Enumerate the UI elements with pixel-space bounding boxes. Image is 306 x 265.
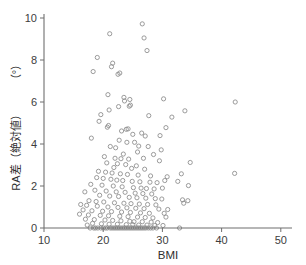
data-point (151, 216, 155, 220)
data-point (152, 187, 156, 191)
data-point (115, 178, 119, 182)
data-point (141, 156, 145, 160)
data-point (81, 208, 85, 212)
x-tick-label: 20 (97, 234, 109, 246)
data-point (101, 209, 105, 213)
data-point (137, 202, 141, 206)
data-point (127, 104, 131, 108)
data-point (143, 167, 147, 171)
data-point (140, 131, 144, 135)
data-point (176, 179, 180, 183)
data-point (135, 215, 139, 219)
data-point (131, 186, 135, 190)
data-point (118, 214, 122, 218)
data-point (143, 134, 147, 138)
data-point (143, 215, 147, 219)
data-point (85, 203, 89, 207)
data-point (114, 146, 118, 150)
data-point (109, 177, 113, 181)
data-point (104, 189, 108, 193)
data-point (98, 193, 102, 197)
data-point (109, 210, 113, 214)
data-point (96, 169, 100, 173)
data-point (170, 115, 174, 119)
data-point (137, 144, 141, 148)
y-axis-unit-label: （°） (10, 59, 22, 85)
data-point (158, 134, 162, 138)
data-point (106, 205, 110, 209)
data-point (149, 220, 153, 224)
y-tick-label: 0 (31, 222, 37, 234)
data-point (163, 178, 167, 182)
data-point (154, 203, 158, 207)
data-point (99, 113, 103, 117)
data-point (129, 202, 133, 206)
data-point (119, 129, 123, 133)
data-point (95, 55, 99, 59)
data-point (102, 155, 106, 159)
data-point (164, 126, 168, 130)
data-point (134, 206, 138, 210)
data-point (160, 197, 164, 201)
data-point (94, 199, 98, 203)
data-point (90, 221, 94, 225)
data-point (121, 152, 125, 156)
data-point (147, 211, 151, 215)
data-point (103, 170, 107, 174)
data-point (110, 171, 114, 175)
x-tick-label: 30 (156, 234, 168, 246)
data-point (125, 206, 129, 210)
x-axis-ticks: 1020304050 (38, 228, 287, 246)
y-axis-ticks: 0246810 (25, 12, 44, 234)
data-point (141, 191, 145, 195)
data-point (128, 103, 132, 107)
data-point (161, 223, 165, 227)
data-point (127, 195, 131, 199)
data-point (108, 194, 112, 198)
data-point (166, 207, 170, 211)
data-point (89, 136, 93, 140)
data-point (117, 138, 121, 142)
y-tick-label: 8 (31, 54, 37, 66)
data-point (233, 171, 237, 175)
data-point (83, 190, 87, 194)
data-point (140, 220, 144, 224)
data-point (111, 184, 115, 188)
data-point (148, 174, 152, 178)
y-tick-label: 6 (31, 96, 37, 108)
data-point (100, 183, 104, 187)
data-point (130, 179, 134, 183)
data-point (114, 190, 118, 194)
data-point (125, 172, 129, 176)
data-point (157, 159, 161, 163)
data-point (105, 161, 109, 165)
data-point (77, 212, 81, 216)
data-points-layer (77, 22, 237, 230)
data-point (164, 215, 168, 219)
data-point (145, 48, 149, 52)
data-point (86, 213, 90, 217)
data-point (142, 36, 146, 40)
data-point (138, 180, 142, 184)
data-point (122, 201, 126, 205)
data-point (131, 132, 135, 136)
x-tick-label: 40 (215, 234, 227, 246)
data-point (116, 205, 120, 209)
data-point (99, 222, 103, 226)
data-point (144, 186, 148, 190)
data-point (151, 152, 155, 156)
data-point (123, 190, 127, 194)
data-point (93, 188, 97, 192)
data-point (148, 180, 152, 184)
data-point (119, 157, 123, 161)
data-point (161, 97, 165, 101)
data-point (115, 162, 119, 166)
data-point (136, 173, 140, 177)
data-point (118, 172, 122, 176)
data-point (97, 119, 101, 123)
data-point (128, 97, 132, 101)
data-point (138, 211, 142, 215)
data-point (98, 213, 102, 217)
data-point (179, 172, 183, 176)
y-axis-title: RA差（絶対値） (9, 109, 22, 190)
